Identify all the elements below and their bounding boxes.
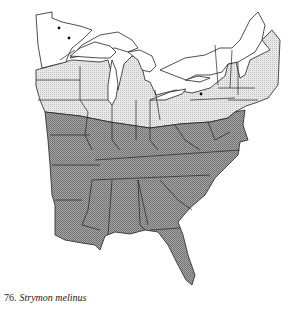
record-marker <box>200 93 203 96</box>
range-map <box>0 0 296 300</box>
absent-zone-minnesota-wisconsin <box>36 12 92 68</box>
species-name: Strymon melinus <box>20 292 87 303</box>
record-marker <box>68 37 71 40</box>
record-marker <box>58 27 61 30</box>
figure-caption: 76.Strymon melinus <box>4 292 86 303</box>
dark-zone <box>45 110 248 285</box>
figure-number: 76. <box>4 292 17 303</box>
